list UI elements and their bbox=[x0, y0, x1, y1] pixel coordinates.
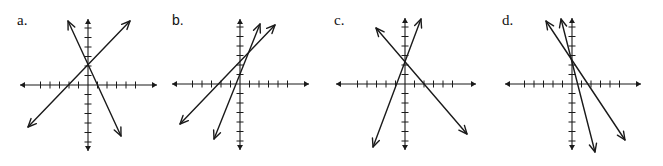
graph-d[interactable] bbox=[505, 18, 641, 152]
axis-arrow-icon bbox=[304, 81, 309, 87]
axis-arrow-icon bbox=[237, 145, 243, 150]
axis-arrow-icon bbox=[85, 19, 91, 24]
axis-arrow-icon bbox=[152, 82, 157, 88]
x-axis bbox=[336, 81, 476, 88]
axis-arrow-icon bbox=[172, 81, 177, 87]
shallow-positive-line bbox=[180, 25, 275, 124]
graph-choices-figure: a. b. c. d. bbox=[0, 0, 663, 166]
axis-arrow-icon bbox=[336, 81, 341, 87]
axis-arrow-icon bbox=[237, 19, 243, 24]
axis-arrow-icon bbox=[569, 18, 575, 23]
graphs-canvas bbox=[0, 0, 663, 166]
axis-arrow-icon bbox=[20, 82, 25, 88]
axis-arrow-icon bbox=[636, 81, 641, 87]
axis-arrow-icon bbox=[505, 81, 510, 87]
arrowhead-icon bbox=[617, 131, 625, 140]
positive-slope-line bbox=[28, 21, 130, 127]
axis-arrow-icon bbox=[402, 145, 408, 150]
x-axis bbox=[505, 81, 641, 88]
axis-arrow-icon bbox=[569, 145, 575, 150]
graph-c[interactable] bbox=[336, 18, 476, 150]
axis-arrow-icon bbox=[471, 81, 476, 87]
shallow-negative-line bbox=[546, 21, 625, 140]
graph-b[interactable] bbox=[172, 19, 309, 150]
arrowhead-icon bbox=[546, 21, 554, 30]
axis-arrow-icon bbox=[402, 18, 408, 23]
axis-arrow-icon bbox=[85, 146, 91, 151]
negative-slope-line bbox=[376, 28, 467, 134]
graph-a[interactable] bbox=[20, 19, 157, 151]
